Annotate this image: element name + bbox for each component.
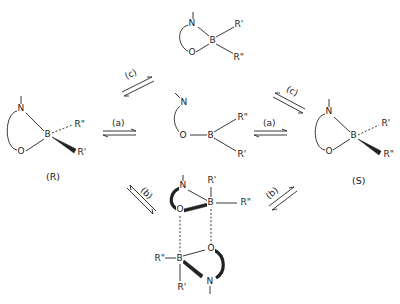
upper-atom-nitrogen: N [179,181,187,190]
condition-label-a-right: (a) [263,119,276,128]
upper-atom-oxygen: O [176,205,184,214]
atom-boron: B [44,130,51,139]
lower-atom-nitrogen: N [206,277,214,286]
atom-boron: B [350,131,357,140]
substituent-r-double-prime-dashed: R" [74,120,85,129]
substituent-r-double-prime: R" [237,113,248,122]
equilibrium-arrow-c-right [273,93,305,113]
equilibrium-arrow-a-right [254,129,287,137]
atom-oxygen: O [188,48,196,57]
atom-nitrogen: N [325,107,333,116]
substituent-r-prime: R' [234,20,244,29]
stereo-label-s: (S) [352,176,365,186]
substituent-r-double-prime: R" [233,53,244,62]
lower-atom-boron: B [176,254,183,263]
upper-substituent-r-prime: R' [207,176,217,185]
substituent-r-prime-dashed: R' [381,119,391,128]
scheme-bonds [0,0,400,304]
atom-nitrogen: N [180,98,188,107]
condition-label-a-left: (a) [112,119,125,128]
stereo-label-r: (R) [46,172,60,182]
upper-substituent-r-double-prime: R" [240,198,251,207]
reaction-scheme: N O B R' R" N O B R" R' N O B R" R' (R) … [0,0,400,304]
substituent-r-prime: R' [237,150,247,159]
atom-boron: B [207,131,214,140]
lower-substituent-r-prime: R' [177,283,187,292]
lower-atom-oxygen: O [207,244,215,253]
dimer-bonds [165,175,237,294]
atom-boron: B [209,36,216,45]
atom-oxygen: O [179,131,187,140]
atom-nitrogen: N [188,19,196,28]
atom-oxygen: O [325,147,333,156]
atom-nitrogen: N [17,104,25,113]
substituent-r-double-prime-wedged: R" [383,150,394,159]
upper-atom-boron: B [207,198,214,207]
atom-oxygen: O [17,147,25,156]
substituent-r-prime-wedged: R' [77,148,87,157]
equilibrium-arrow-a-left [103,129,136,137]
lower-substituent-r-double-prime: R" [154,254,165,263]
